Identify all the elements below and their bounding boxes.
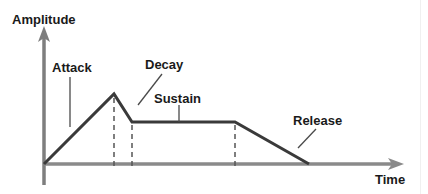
attack-label: Attack (52, 60, 93, 75)
decay-label: Decay (145, 57, 184, 72)
phase-boundaries (114, 98, 235, 170)
release-label: Release (293, 113, 342, 128)
x-axis-label: Time (375, 172, 405, 187)
right-edge-line (420, 0, 421, 194)
y-axis-label: Amplitude (12, 12, 76, 27)
adsr-envelope-diagram: Amplitude Time Attack Decay Sustain Rele… (0, 0, 428, 194)
sustain-label: Sustain (154, 91, 201, 106)
release-leader (298, 129, 316, 148)
leader-lines (70, 74, 316, 148)
x-axis (44, 158, 404, 170)
